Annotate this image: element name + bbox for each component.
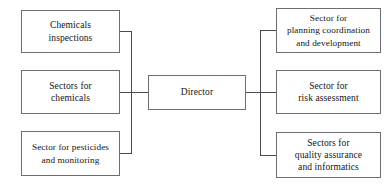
- connector-left-bus-to-director: [131, 92, 149, 93]
- node-sector-for-planning-coordination-and-development-label: Sector for planning coordination and dev…: [284, 12, 373, 49]
- connector-bus-to-risk-assessment: [260, 92, 277, 93]
- node-sector-for-pesticides-and-monitoring[interactable]: Sector for pesticides and monitoring: [21, 131, 120, 176]
- node-chemicals-inspections-label: Chemicals inspections: [46, 19, 96, 43]
- connector-director-to-right-bus: [246, 92, 261, 93]
- node-director-label: Director: [178, 86, 216, 98]
- node-sectors-for-chemicals[interactable]: Sectors for chemicals: [21, 70, 120, 114]
- node-director[interactable]: Director: [148, 75, 246, 110]
- node-sectors-for-quality-assurance-and-informatics[interactable]: Sectors for quality assurance and inform…: [276, 132, 381, 178]
- node-sector-for-pesticides-and-monitoring-label: Sector for pesticides and monitoring: [29, 141, 112, 165]
- connector-bus-to-planning-coordination: [260, 30, 277, 31]
- node-chemicals-inspections[interactable]: Chemicals inspections: [21, 10, 120, 53]
- connector-bus-to-quality-assurance: [260, 155, 277, 156]
- node-sector-for-risk-assessment-label: Sector for risk assessment: [295, 80, 361, 104]
- node-sector-for-planning-coordination-and-development[interactable]: Sector for planning coordination and dev…: [276, 8, 381, 53]
- org-chart-diagram: Chemicals inspections Sectors for chemic…: [0, 0, 389, 190]
- node-sectors-for-chemicals-label: Sectors for chemicals: [46, 80, 95, 104]
- node-sector-for-risk-assessment[interactable]: Sector for risk assessment: [276, 70, 381, 114]
- node-sectors-for-quality-assurance-and-informatics-label: Sectors for quality assurance and inform…: [292, 137, 365, 174]
